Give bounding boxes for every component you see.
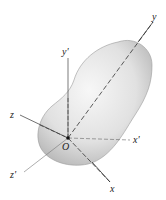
label-x-prime: x' xyxy=(132,134,140,145)
rigid-body-shape xyxy=(38,40,152,165)
origin-point xyxy=(66,136,70,140)
label-origin: O xyxy=(62,141,69,152)
label-z-prime: z' xyxy=(9,169,17,180)
label-y-prime: y' xyxy=(61,46,69,57)
label-z: z xyxy=(9,109,14,120)
rigid-body-diagram: y' y z x' z' x O xyxy=(0,0,166,200)
label-y: y xyxy=(151,11,157,22)
label-x: x xyxy=(109,183,115,194)
